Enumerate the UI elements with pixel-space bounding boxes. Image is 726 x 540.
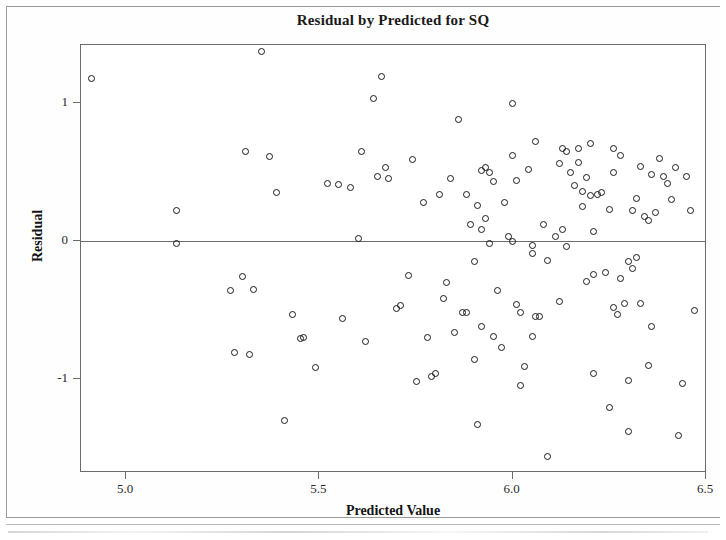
data-point	[602, 269, 609, 276]
data-point	[413, 378, 420, 385]
data-point	[525, 166, 532, 173]
x-tick-label: 5.0	[95, 481, 155, 497]
data-point	[529, 333, 536, 340]
data-point	[583, 174, 590, 181]
data-point	[409, 156, 416, 163]
data-point	[590, 370, 597, 377]
data-point	[687, 207, 694, 214]
data-point	[246, 351, 253, 358]
data-point	[312, 364, 319, 371]
data-point	[281, 417, 288, 424]
data-point	[339, 315, 346, 322]
data-point	[587, 140, 594, 147]
data-point	[347, 184, 354, 191]
x-tick-mark	[512, 472, 513, 479]
data-point	[567, 169, 574, 176]
data-point	[579, 188, 586, 195]
data-point	[266, 153, 273, 160]
data-point	[579, 203, 586, 210]
data-point	[691, 307, 698, 314]
data-point	[660, 173, 667, 180]
plot-area	[80, 44, 706, 472]
figure-page: Residual by Predicted for SQ 5.05.56.06.…	[0, 0, 726, 540]
data-point	[486, 169, 493, 176]
data-point	[300, 334, 307, 341]
data-point	[273, 189, 280, 196]
data-point	[668, 196, 675, 203]
data-point	[335, 181, 342, 188]
data-point	[559, 226, 566, 233]
data-point	[494, 287, 501, 294]
y-tick-label: -1	[40, 370, 68, 386]
x-tick-mark	[318, 472, 319, 479]
data-point	[563, 148, 570, 155]
data-point	[358, 148, 365, 155]
data-point	[606, 404, 613, 411]
data-point	[289, 311, 296, 318]
data-point	[227, 287, 234, 294]
data-point	[571, 182, 578, 189]
y-tick-mark	[73, 102, 80, 103]
data-point	[664, 180, 671, 187]
data-point	[447, 175, 454, 182]
data-point	[362, 338, 369, 345]
data-point	[544, 453, 551, 460]
data-point	[474, 202, 481, 209]
data-point	[440, 295, 447, 302]
data-point	[482, 215, 489, 222]
data-point	[590, 228, 597, 235]
data-point	[652, 209, 659, 216]
data-point	[629, 265, 636, 272]
data-point	[517, 382, 524, 389]
data-point	[598, 189, 605, 196]
data-point	[614, 311, 621, 318]
data-point	[385, 175, 392, 182]
data-point	[672, 164, 679, 171]
data-point	[648, 323, 655, 330]
page-bottom-rule	[6, 524, 720, 525]
data-point	[463, 191, 470, 198]
data-point	[405, 272, 412, 279]
data-point	[370, 95, 377, 102]
plot-canvas	[81, 45, 705, 471]
data-point	[529, 242, 536, 249]
data-point	[617, 152, 624, 159]
data-point	[324, 180, 331, 187]
data-point	[590, 271, 597, 278]
data-point	[436, 191, 443, 198]
y-axis-title: Residual	[30, 176, 46, 296]
data-point	[463, 309, 470, 316]
data-point	[517, 309, 524, 316]
data-point	[509, 152, 516, 159]
data-point	[490, 178, 497, 185]
data-point	[556, 160, 563, 167]
data-point	[455, 116, 462, 123]
data-point	[424, 334, 431, 341]
data-point	[563, 243, 570, 250]
data-point	[583, 278, 590, 285]
data-point	[648, 171, 655, 178]
data-point	[552, 233, 559, 240]
data-point	[575, 145, 582, 152]
data-point	[513, 301, 520, 308]
data-point	[633, 195, 640, 202]
data-point	[250, 286, 257, 293]
data-point	[498, 344, 505, 351]
data-point	[621, 300, 628, 307]
data-point	[443, 279, 450, 286]
data-point	[610, 145, 617, 152]
data-point	[471, 356, 478, 363]
data-point	[173, 207, 180, 214]
data-point	[471, 258, 478, 265]
data-point	[656, 155, 663, 162]
data-point	[683, 173, 690, 180]
x-tick-label: 6.0	[482, 481, 542, 497]
data-point	[544, 257, 551, 264]
x-tick-label: 5.5	[288, 481, 348, 497]
data-point	[617, 275, 624, 282]
data-point	[420, 199, 427, 206]
y-tick-mark	[73, 240, 80, 241]
data-point	[490, 333, 497, 340]
data-point	[397, 302, 404, 309]
data-point	[625, 377, 632, 384]
